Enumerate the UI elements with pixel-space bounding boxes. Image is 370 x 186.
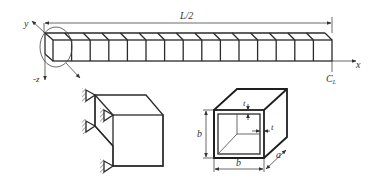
support-pin — [82, 119, 95, 134]
length-dimension: L/2 — [44, 10, 332, 33]
beam-diagram: L/2 y — [0, 0, 370, 186]
height-label: b — [197, 128, 202, 139]
x-axis-label: x — [355, 59, 361, 70]
beam-segments — [65, 33, 314, 61]
beam — [45, 33, 332, 61]
depth-label: a — [276, 149, 281, 160]
thickness-top-label: t — [243, 98, 246, 108]
y-axis-label: y — [23, 18, 29, 29]
width-label: b — [236, 157, 241, 168]
support-pin — [100, 159, 113, 174]
coordinate-axes: y -z x CL — [23, 18, 361, 85]
support-detail — [82, 88, 163, 174]
centerline-label: CL — [326, 73, 337, 85]
support-pin — [100, 108, 113, 123]
support-pin — [82, 88, 95, 103]
length-label: L/2 — [179, 10, 193, 21]
z-axis-label: -z — [33, 74, 40, 84]
thickness-side-label: t — [271, 122, 274, 132]
cross-section-detail: t t b b a — [197, 89, 287, 172]
